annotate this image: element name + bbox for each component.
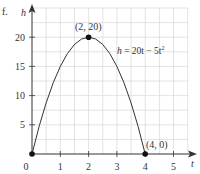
x-tick-0: 0 bbox=[24, 161, 29, 172]
axes bbox=[32, 9, 193, 154]
chart: f. h t 20 15 10 5 0 1 2 3 4 5 (2, 20) (4… bbox=[0, 0, 200, 174]
root-label: (4, 0) bbox=[146, 139, 168, 151]
x-axis-label: t bbox=[191, 158, 194, 169]
root-point bbox=[142, 151, 148, 157]
equation-exponent: 2 bbox=[162, 45, 165, 51]
x-tick-3: 3 bbox=[114, 161, 119, 172]
origin-point bbox=[29, 151, 35, 157]
equation-label: h = 20t − 5t2 bbox=[117, 45, 165, 56]
x-tick-4: 4 bbox=[143, 161, 148, 172]
x-tick-5: 5 bbox=[171, 161, 176, 172]
figure-label: f. bbox=[2, 6, 8, 17]
y-tick-15: 15 bbox=[15, 61, 25, 72]
x-tick-1: 1 bbox=[58, 161, 63, 172]
peak-label: (2, 20) bbox=[75, 21, 102, 33]
y-tick-5: 5 bbox=[20, 119, 25, 130]
x-tick-2: 2 bbox=[86, 161, 91, 172]
grid bbox=[32, 8, 188, 154]
peak-point bbox=[86, 34, 92, 40]
y-tick-20: 20 bbox=[15, 32, 25, 43]
y-axis-label: h bbox=[21, 7, 26, 18]
equation-rhs: = 20t − 5t bbox=[122, 46, 162, 56]
y-tick-10: 10 bbox=[15, 90, 25, 101]
